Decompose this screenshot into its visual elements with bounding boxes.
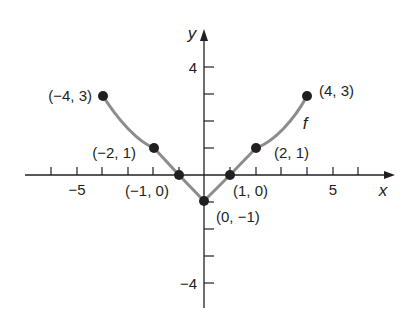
label-2-1: (2, 1): [274, 144, 309, 161]
function-label-f: f: [303, 114, 310, 133]
point-neg1-0: [174, 170, 184, 180]
x-axis-arrow-icon: [384, 171, 395, 179]
label-1-0: (1, 0): [233, 182, 268, 199]
function-graph: −5 5 x 4 −4 y (−4, 3) (−2, 1): [0, 0, 409, 324]
x-tick-label-5: 5: [329, 181, 337, 198]
y-tick-label-neg4: −4: [180, 275, 197, 292]
x-tick-label-neg5: −5: [68, 181, 85, 198]
y-axis-label: y: [187, 24, 198, 43]
label-0-neg1: (0, −1): [216, 208, 260, 225]
y-axis: 4 −4 y: [180, 24, 214, 308]
label-neg4-3: (−4, 3): [48, 87, 92, 104]
x-axis-label: x: [378, 181, 388, 200]
y-tick-label-4: 4: [189, 59, 197, 76]
point-neg2-1: [149, 143, 159, 153]
point-0-neg1: [199, 196, 209, 206]
y-axis-arrow-icon: [200, 29, 208, 41]
point-neg4-3: [98, 91, 108, 101]
label-neg1-0: (−1, 0): [125, 182, 169, 199]
point-1-0: [225, 170, 235, 180]
label-neg2-1: (−2, 1): [92, 144, 136, 161]
point-2-1: [251, 143, 261, 153]
point-4-3: [302, 91, 312, 101]
label-4-3: (4, 3): [319, 82, 354, 99]
